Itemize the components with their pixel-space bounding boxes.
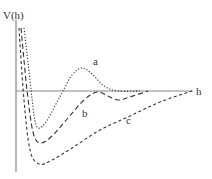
y-axis-label: V(h) xyxy=(3,9,24,22)
curve-c-label: c xyxy=(126,114,131,126)
curve-a-label: a xyxy=(93,55,98,67)
x-axis-label: h xyxy=(196,85,202,97)
curve-b-label: b xyxy=(82,107,88,119)
curve-c xyxy=(19,28,192,164)
potential-energy-chart: V(h) h a b c xyxy=(0,0,212,179)
